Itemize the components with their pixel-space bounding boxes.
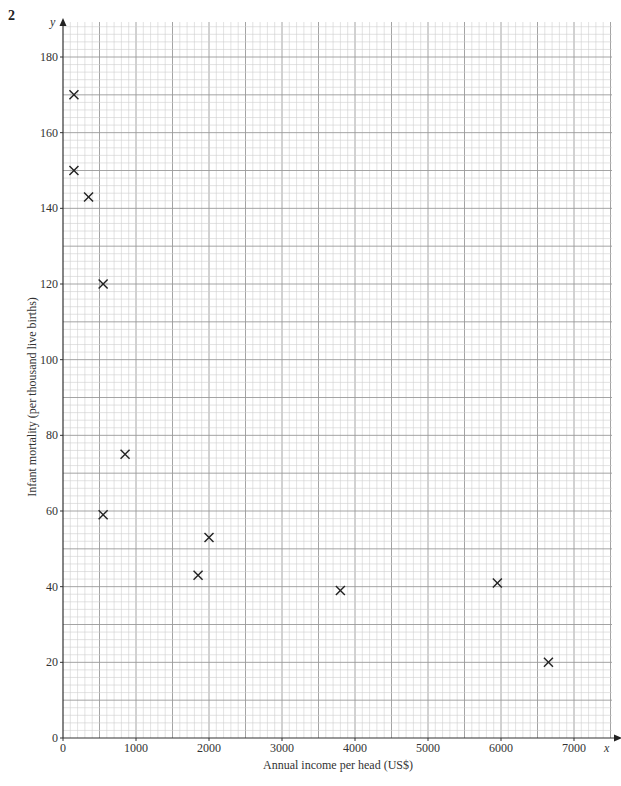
y-tick-label: 20 <box>46 655 58 669</box>
data-point-cross <box>121 450 130 459</box>
y-tick-label: 60 <box>46 504 58 518</box>
y-tick-label: 0 <box>52 731 58 745</box>
x-tick-label: 2000 <box>197 741 221 755</box>
x-tick-label: 7000 <box>562 741 586 755</box>
y-tick-label: 140 <box>40 201 58 215</box>
y-tick-label: 120 <box>40 277 58 291</box>
graph-paper-grid <box>63 22 612 738</box>
y-tick-label: 100 <box>40 353 58 367</box>
x-axis-label: Annual income per head (US$) <box>263 758 413 772</box>
data-point-cross <box>194 571 203 580</box>
data-point-cross <box>84 192 93 201</box>
y-axis-variable: y <box>49 15 56 29</box>
tick-labels: 0100020003000400050006000700002040608010… <box>40 50 586 755</box>
x-tick-label: 6000 <box>489 741 513 755</box>
x-axis-variable: x <box>603 741 610 755</box>
y-tick-label: 40 <box>46 580 58 594</box>
data-point-cross <box>99 510 108 519</box>
x-tick-label: 1000 <box>124 741 148 755</box>
y-tick-label: 160 <box>40 126 58 140</box>
scatter-chart: 0100020003000400050006000700002040608010… <box>0 0 621 786</box>
y-tick-label: 180 <box>40 50 58 64</box>
x-tick-label: 3000 <box>270 741 294 755</box>
x-tick-label: 5000 <box>416 741 440 755</box>
y-axis-label: Infant mortality (per thousand live birt… <box>25 297 39 497</box>
x-tick-label: 4000 <box>343 741 367 755</box>
data-point-cross <box>493 578 502 587</box>
x-tick-label: 0 <box>60 741 66 755</box>
y-tick-label: 80 <box>46 428 58 442</box>
